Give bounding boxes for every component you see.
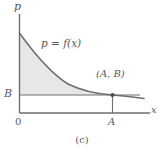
origin-label: 0 <box>15 117 21 127</box>
point-label-ab: (A, B) <box>96 69 125 79</box>
x-tick-label-a: A <box>108 117 115 127</box>
x-axis-label: x <box>151 105 157 115</box>
curve-equation-label: p = f(x) <box>41 38 81 49</box>
y-tick-label-b: B <box>4 88 12 99</box>
point-marker-ab <box>110 93 114 97</box>
figure-container: p x 0 B A p = f(x) (A, B) (c) <box>0 0 164 155</box>
demand-curve-figure <box>0 0 164 155</box>
y-axis-label: p <box>14 1 21 12</box>
figure-caption: (c) <box>0 134 164 145</box>
